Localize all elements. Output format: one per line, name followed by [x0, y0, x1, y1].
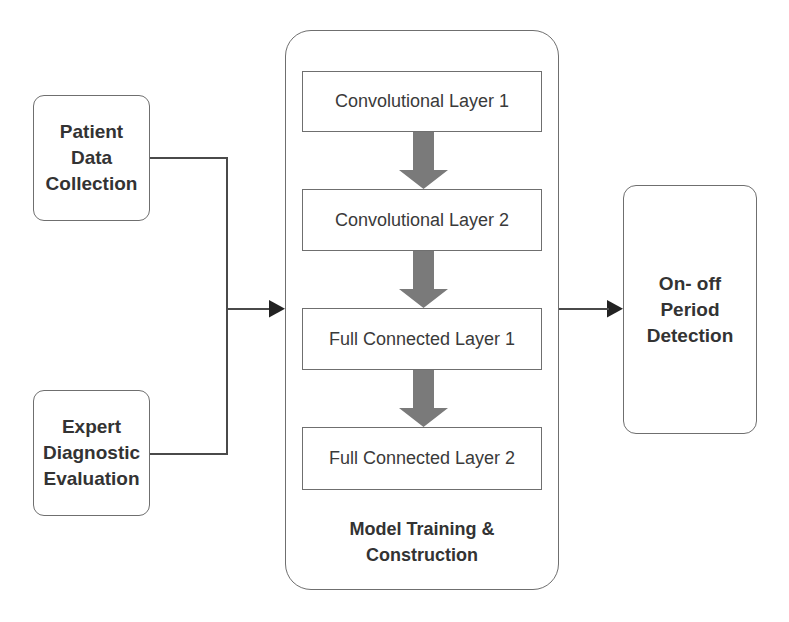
title-line: Construction — [285, 542, 559, 568]
down-arrow-icon — [399, 370, 448, 427]
on-off-period-detection-label: On- off Period Detection — [647, 271, 734, 349]
label-line: On- off — [647, 271, 734, 297]
on-off-period-detection-box: On- off Period Detection — [623, 185, 757, 434]
label-line: Period — [647, 297, 734, 323]
model-training-title: Model Training & Construction — [285, 516, 559, 568]
down-arrow-icon — [399, 132, 448, 189]
connector-to-output — [559, 308, 609, 310]
label-line: Detection — [647, 323, 734, 349]
down-arrow-icon — [399, 251, 448, 308]
title-line: Model Training & — [285, 516, 559, 542]
